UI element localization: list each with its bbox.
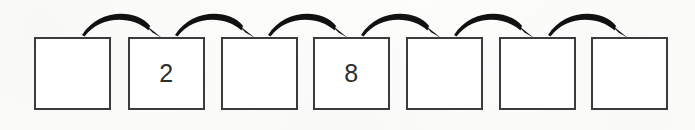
arrow-head [142,22,162,38]
sequence-box-blank[interactable] [406,37,483,110]
arrow-head [608,22,628,38]
sequence-box-blank[interactable] [591,37,668,110]
curved-arrow-icon [175,14,255,38]
arrow-shaft [268,14,336,37]
arrow-shaft [82,14,150,37]
curved-arrow-icon [268,14,348,38]
curved-arrow-icon [361,14,441,38]
arrow-shaft [361,14,429,37]
arrow-head [328,22,348,38]
curved-arrow-icon [454,14,534,38]
arrow-head [235,22,255,38]
arrow-shaft [175,14,243,37]
sequence-box-value: 8 [344,61,358,86]
number-sequence-worksheet: 28 [0,0,695,130]
sequence-box-blank[interactable] [34,37,111,110]
curved-arrow-icon [548,14,628,38]
sequence-box-value: 2 [159,61,173,86]
arrow-head [514,22,534,38]
curved-arrow-icon [82,14,162,38]
sequence-box-blank[interactable] [221,37,298,110]
arrow-shaft [548,14,616,37]
sequence-box-filled[interactable]: 2 [128,37,205,110]
arrow-shaft [454,14,522,37]
sequence-box-blank[interactable] [499,37,576,110]
sequence-box-filled[interactable]: 8 [313,37,390,110]
arrow-head [421,22,441,38]
